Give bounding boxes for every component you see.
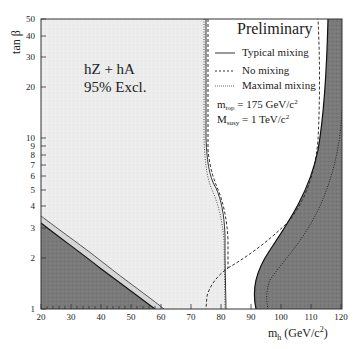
x-tick-70: 70	[187, 312, 197, 322]
y-tick-1: 1	[31, 304, 36, 314]
x-tick-labels: 20 30 40 50 60 70 80 90 100 110 120	[37, 312, 349, 322]
x-tick-30: 30	[67, 312, 77, 322]
x-tick-80: 80	[217, 312, 227, 322]
legend: Typical mixing No mixing Maximal mixing …	[215, 46, 316, 127]
annotation-channel: hZ + hA	[84, 61, 135, 77]
y-tick-7: 7	[31, 160, 36, 170]
x-tick-100: 100	[274, 312, 288, 322]
y-tick-20: 20	[26, 82, 36, 92]
y-tick-10: 10	[26, 133, 36, 143]
x-tick-90: 90	[247, 312, 257, 322]
x-tick-60: 60	[157, 312, 167, 322]
y-axis-title: tan β	[9, 30, 23, 54]
x-axis-title: mh (GeV/c2)	[268, 325, 328, 342]
y-tick-50: 50	[26, 14, 36, 24]
y-tick-5: 5	[31, 185, 36, 195]
inaccessible-region-high	[254, 19, 342, 309]
legend-typical-mixing: Typical mixing	[242, 46, 309, 58]
y-tick-40: 40	[26, 31, 36, 41]
x-tick-20: 20	[37, 312, 47, 322]
legend-maximal-mixing: Maximal mixing	[242, 79, 316, 91]
preliminary-label: Preliminary	[237, 20, 313, 38]
y-tick-30: 30	[26, 52, 36, 62]
x-tick-120: 120	[334, 312, 348, 322]
msusy-label: Msusy = 1 TeV/c2	[217, 113, 290, 127]
legend-no-mixing: No mixing	[242, 64, 290, 76]
y-tick-3: 3	[31, 223, 36, 233]
mtop-label: mtop = 175 GeV/c2	[217, 98, 298, 112]
y-tick-4: 4	[31, 201, 36, 211]
y-tick-2: 2	[31, 253, 36, 263]
x-tick-50: 50	[127, 312, 137, 322]
x-tick-110: 110	[304, 312, 318, 322]
y-tick-8: 8	[31, 150, 36, 160]
exclusion-chart: 20 30 40 50 60 70 80 90 100 110 120 1 2 …	[0, 0, 360, 349]
annotation-cl: 95% Excl.	[84, 79, 146, 95]
y-tick-labels: 1 2 3 4 5 6 7 8 9 10 20 30 40 50	[26, 14, 36, 314]
x-tick-40: 40	[97, 312, 107, 322]
y-tick-6: 6	[31, 171, 36, 181]
